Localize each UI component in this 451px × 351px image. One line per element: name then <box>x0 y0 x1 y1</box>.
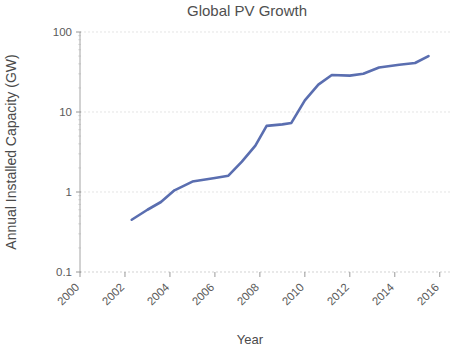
y-tick-label: 10 <box>59 106 72 118</box>
y-tick-label: 100 <box>53 26 72 38</box>
chart-title: Global PV Growth <box>187 2 307 19</box>
y-axis-label: Annual Installed Capacity (GW) <box>3 54 19 249</box>
global-pv-growth-chart: 1001010.1 200020022004200620082010201220… <box>0 0 451 351</box>
x-axis-label: Year <box>237 332 264 347</box>
y-tick-label: 1 <box>66 186 72 198</box>
y-tick-label: 0.1 <box>56 266 72 278</box>
chart-container: 1001010.1 200020022004200620082010201220… <box>0 0 451 351</box>
